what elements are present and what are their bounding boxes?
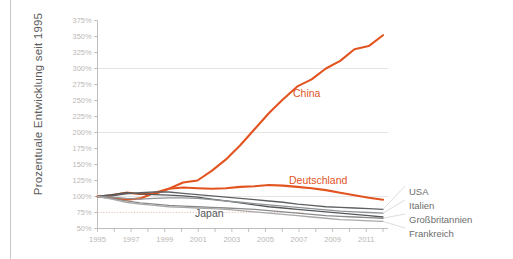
y-tick-label: 100% (73, 192, 92, 201)
x-tick-labels: 199519971999200120032005200720092011 (89, 235, 374, 244)
y-tick-label: 275% (73, 80, 92, 89)
y-tick-label: 125% (73, 176, 92, 185)
y-tick-label: 200% (73, 128, 92, 137)
y-tick-label: 250% (73, 96, 92, 105)
x-tick-label: 1997 (123, 235, 140, 244)
chart-screenshot: Prozentuale Entwicklung seit 1995 375%35… (0, 0, 513, 259)
x-tick-label: 2005 (257, 235, 274, 244)
y-tick-labels: 375%350%325%300%275%250%225%200%175%150%… (73, 16, 92, 233)
legend-label-frankreich: Frankreich (409, 228, 454, 239)
leader-line-frankreich (383, 221, 405, 228)
x-axis (98, 229, 389, 232)
legend-item-frankreich[interactable]: Frankreich (409, 223, 454, 241)
y-tick-label: 50% (77, 224, 92, 233)
leader-line-italien (383, 200, 405, 213)
series-label-china: China (293, 83, 320, 101)
y-tick-label: 375% (73, 16, 92, 25)
x-tick-label: 2009 (324, 235, 341, 244)
series-label-japan: Japan (195, 203, 224, 221)
x-tick-label: 2007 (291, 235, 308, 244)
x-tick-label: 2003 (223, 235, 240, 244)
x-tick-label: 1995 (89, 235, 106, 244)
y-tick-label: 325% (73, 48, 92, 57)
y-tick-label: 350% (73, 32, 92, 41)
leader-line-usa (383, 186, 405, 209)
x-tick-label: 1999 (156, 235, 173, 244)
y-tick-label: 150% (73, 160, 92, 169)
legend-leader-lines (383, 186, 405, 228)
y-tick-label: 75% (77, 208, 92, 217)
x-tick-label: 2011 (358, 235, 374, 244)
y-tick-label: 225% (73, 112, 92, 121)
leader-line-grobritannien (383, 214, 405, 218)
y-tick-label: 175% (73, 144, 92, 153)
y-tick-label: 300% (73, 64, 92, 73)
series-lines (98, 35, 384, 221)
x-tick-label: 2001 (190, 235, 207, 244)
series-label-deutschland: Deutschland (289, 170, 347, 188)
